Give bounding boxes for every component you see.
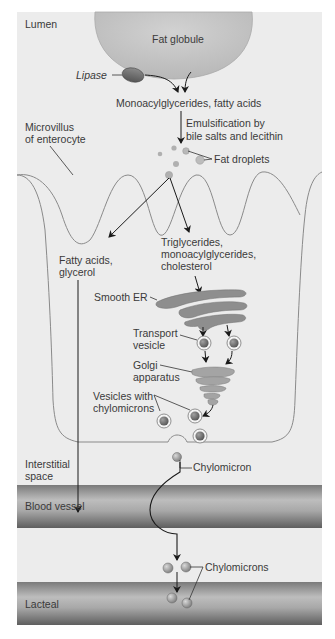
label-monoacylglycerides: Monoacylglycerides, fatty acids bbox=[116, 97, 261, 109]
label-chylomicron: Chylomicron bbox=[193, 461, 252, 473]
lacteal bbox=[17, 582, 322, 625]
transport-vesicle bbox=[197, 336, 211, 350]
fat-absorption-diagram: Lumen Fat globule Lipase Monoacylglyceri… bbox=[0, 0, 335, 639]
label-interstitial-2: space bbox=[25, 470, 53, 482]
label-golgi-2: apparatus bbox=[133, 371, 180, 383]
label-transport-2: vesicle bbox=[133, 339, 165, 351]
label-microvillus-1: Microvillus bbox=[25, 121, 74, 133]
label-triglycerides-1: Triglycerides, bbox=[161, 236, 223, 248]
label-fat-droplets: Fat droplets bbox=[214, 153, 269, 165]
label-smooth-er: Smooth ER bbox=[94, 291, 148, 303]
label-lacteal: Lacteal bbox=[25, 598, 59, 610]
label-golgi-1: Golgi bbox=[133, 359, 158, 371]
label-microvillus-2: of enterocyte bbox=[25, 133, 86, 145]
chylomicron-vesicle bbox=[188, 409, 202, 423]
label-vesicles-1: Vesicles with bbox=[93, 390, 153, 402]
label-lipase: Lipase bbox=[76, 69, 107, 81]
label-fatty-acids-2: glycerol bbox=[59, 266, 95, 278]
label-transport-1: Transport bbox=[133, 327, 178, 339]
label-chylomicrons: Chylomicrons bbox=[205, 561, 269, 573]
label-triglycerides-2: monoacylglycerides, bbox=[161, 248, 256, 260]
label-vesicles-2: chylomicrons bbox=[93, 402, 154, 414]
label-interstitial-1: Interstitial bbox=[25, 458, 70, 470]
label-blood-vessel: Blood vessel bbox=[25, 500, 85, 512]
chylomicron-vesicle bbox=[157, 414, 171, 428]
transport-vesicle bbox=[227, 336, 241, 350]
label-emulsification-1: Emulsification by bbox=[186, 117, 266, 129]
label-lumen: Lumen bbox=[25, 18, 57, 30]
label-triglycerides-3: cholesterol bbox=[161, 260, 212, 272]
chylomicron-vesicle bbox=[193, 429, 207, 443]
label-fat-globule: Fat globule bbox=[152, 33, 204, 45]
label-emulsification-2: bile salts and lecithin bbox=[186, 130, 283, 142]
label-fatty-acids-1: Fatty acids, bbox=[59, 254, 113, 266]
